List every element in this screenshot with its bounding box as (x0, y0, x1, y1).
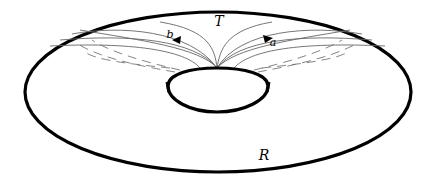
label-T: T (214, 13, 225, 29)
inner-hole-tick-right (267, 82, 269, 92)
torus-diagram: T R b a (0, 0, 431, 181)
label-R: R (258, 147, 270, 163)
outer-boundary (25, 12, 411, 172)
inner-hole (168, 68, 268, 112)
inner-hole-tick-left (167, 82, 169, 92)
label-b: b (166, 28, 173, 41)
label-a: a (270, 36, 277, 49)
